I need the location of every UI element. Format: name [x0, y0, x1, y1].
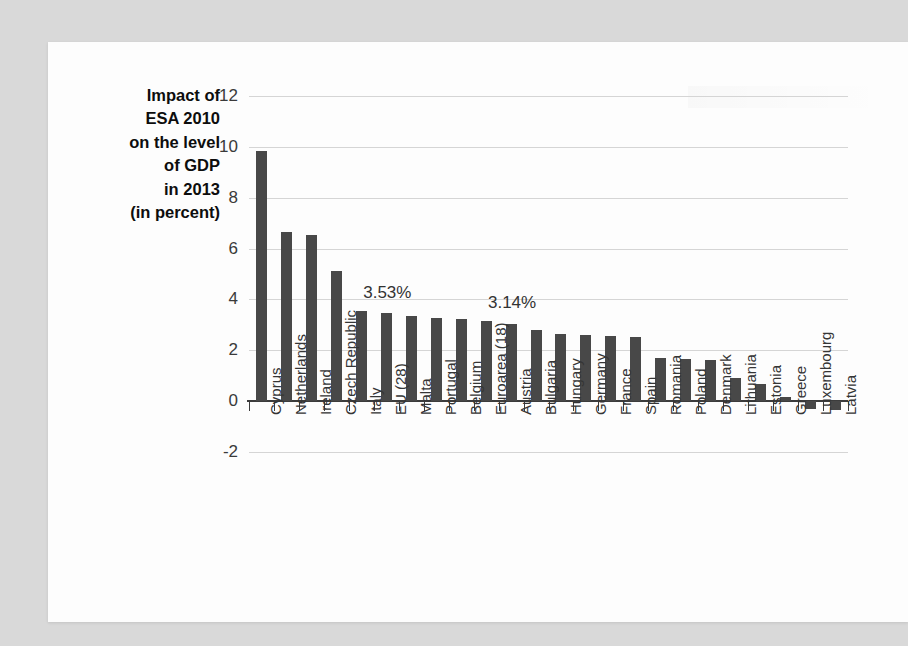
x-axis-label: Bulgaria: [542, 360, 559, 415]
x-axis-label: Luxembourg: [817, 332, 834, 415]
x-axis-label: Poland: [692, 368, 709, 415]
y-tick-label: 4: [229, 289, 238, 309]
y-tick-label: 8: [229, 188, 238, 208]
x-axis-label: Euroarea (18): [492, 323, 509, 416]
x-axis-label: Cyprus: [267, 368, 284, 416]
x-axis-label: Spain: [642, 377, 659, 415]
x-axis-label: Lithuania: [742, 354, 759, 415]
x-axis-label: Netherlands: [292, 334, 309, 415]
x-axis-label: Hungary: [567, 358, 584, 415]
x-axis-label: EU (28): [392, 363, 409, 415]
y-tick-label: 12: [219, 86, 238, 106]
x-axis-label: Austria: [517, 368, 534, 415]
chart-title-line-4: in 2013: [60, 178, 220, 201]
data-label: 3.53%: [363, 283, 411, 303]
x-axis-label: Malta: [417, 378, 434, 415]
x-axis-label: Denmark: [717, 354, 734, 415]
gridline--2: [249, 452, 848, 453]
chart-title-line-3: of GDP: [60, 154, 220, 177]
chart-title: Impact ofESA 2010on the levelof GDPin 20…: [60, 84, 220, 225]
chart-title-line-0: Impact of: [60, 84, 220, 107]
x-tick: [249, 401, 250, 411]
x-axis-label: Portugal: [442, 359, 459, 415]
x-axis-label: Latvia: [842, 375, 859, 415]
y-tick-label: 2: [229, 340, 238, 360]
x-axis-label: Ireland: [317, 369, 334, 415]
x-axis-label: France: [617, 368, 634, 415]
x-axis-label: Romania: [667, 355, 684, 415]
gridline-10: [249, 147, 848, 148]
x-axis-label: Czech Republic: [342, 310, 359, 415]
x-axis-label: Italy: [367, 388, 384, 416]
data-label: 3.14%: [488, 293, 536, 313]
chart-title-line-1: ESA 2010: [60, 107, 220, 130]
x-axis-label: Greece: [792, 366, 809, 415]
y-tick-label: 6: [229, 239, 238, 259]
y-tick-label: -2: [223, 442, 238, 462]
x-axis-label: Estonia: [767, 365, 784, 415]
chart-title-line-5: (in percent): [60, 201, 220, 224]
gridline-12: [249, 96, 848, 97]
x-axis-label: Germany: [592, 353, 609, 415]
x-axis-label: Belgium: [467, 361, 484, 415]
y-tick-label: 0: [229, 391, 238, 411]
gridline-8: [249, 198, 848, 199]
y-tick-label: 10: [219, 137, 238, 157]
gridline-6: [249, 249, 848, 250]
bar: [256, 151, 267, 401]
chart-title-line-2: on the level: [60, 131, 220, 154]
